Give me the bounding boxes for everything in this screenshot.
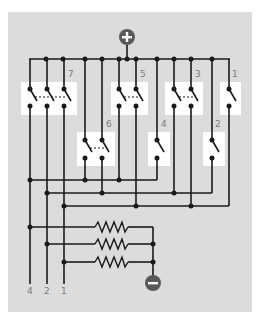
output-label-1: 1 xyxy=(61,286,67,296)
switch-label-4: 4 xyxy=(161,119,167,129)
switch-label-1: 1 xyxy=(232,69,238,79)
switch-box-2 xyxy=(203,132,225,166)
switch-label-7: 7 xyxy=(68,69,74,79)
switch-label-3: 3 xyxy=(195,69,201,79)
negative-terminal xyxy=(145,275,161,291)
switch-label-2: 2 xyxy=(215,119,221,129)
switch-label-6: 6 xyxy=(106,119,112,129)
switch-label-5: 5 xyxy=(140,69,146,79)
circuit-diagram: 7 5 3 1 6 4 2 4 2 1 xyxy=(0,0,263,322)
output-label-4: 4 xyxy=(27,286,33,296)
output-label-2: 2 xyxy=(44,286,50,296)
positive-terminal xyxy=(119,29,135,45)
minus-icon xyxy=(148,282,158,284)
switch-box-1 xyxy=(220,82,241,115)
switch-box-4 xyxy=(148,132,170,166)
switch-box-6 xyxy=(77,132,115,166)
